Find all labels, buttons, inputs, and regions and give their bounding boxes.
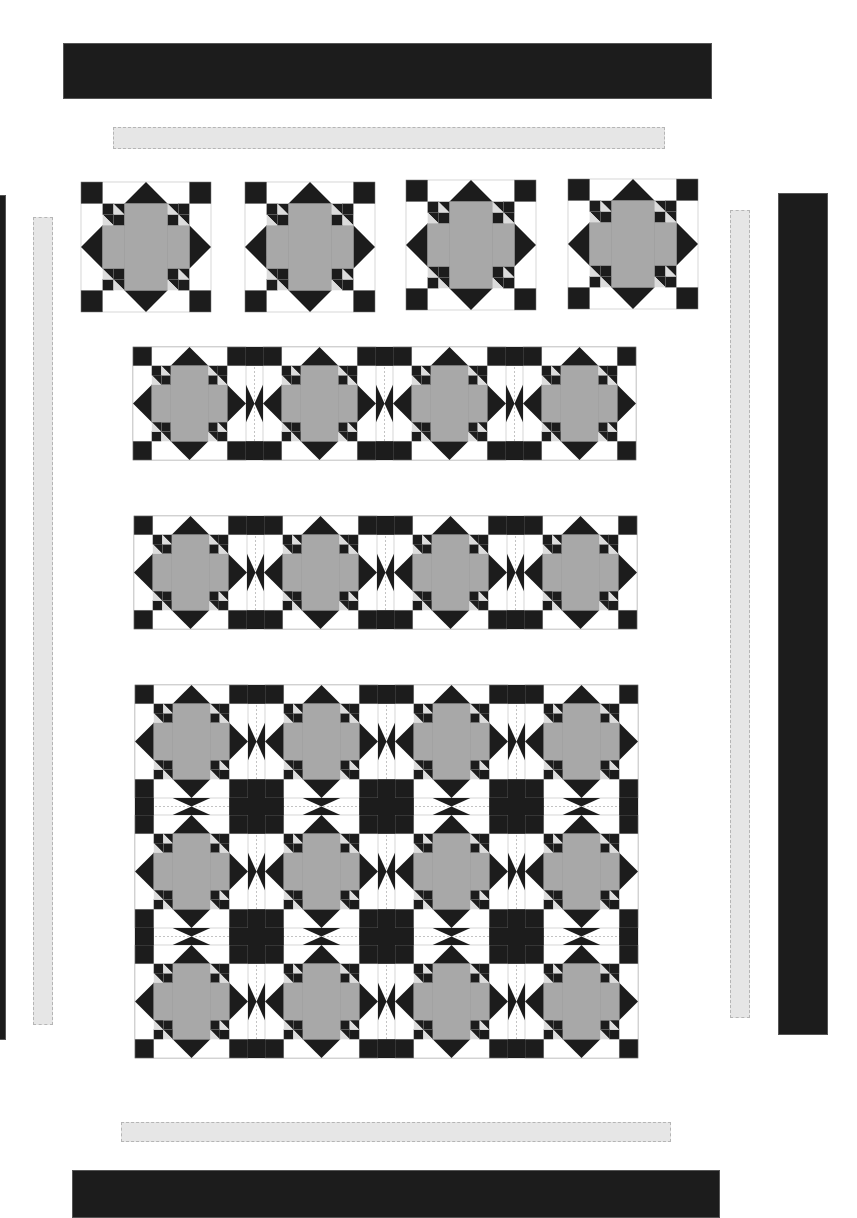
top-inner-border [113, 127, 665, 149]
bottom-inner-border [121, 1122, 671, 1142]
block-grid [135, 685, 638, 1058]
block-row-2 [134, 516, 637, 629]
quilt-block-2 [245, 182, 375, 312]
left-inner-border [33, 217, 53, 1025]
right-outer-border [778, 193, 828, 1035]
left-outer-border [0, 195, 6, 1040]
right-inner-border [730, 210, 750, 1018]
quilt-block-3 [406, 180, 536, 310]
top-outer-border [63, 43, 712, 99]
quilt-block-4 [568, 179, 698, 309]
quilt-block-1 [81, 182, 211, 312]
block-row-1 [133, 347, 636, 460]
bottom-outer-border [72, 1170, 720, 1218]
